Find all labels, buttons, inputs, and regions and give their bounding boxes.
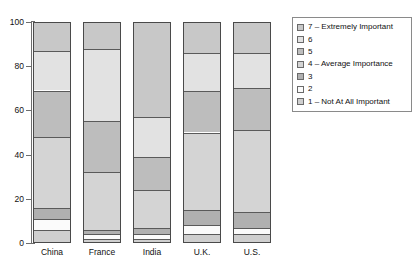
- legend-item-label: 5: [308, 48, 312, 56]
- legend-item: 6: [297, 33, 408, 45]
- bar-segment: [84, 172, 120, 229]
- y-tick-label-wrap: 20: [0, 199, 24, 200]
- bar-segment: [134, 239, 170, 243]
- y-tick-label-wrap: 100: [0, 22, 24, 23]
- bar-segment: [84, 121, 120, 172]
- table-row: [183, 22, 221, 243]
- y-tick-mark: [26, 243, 32, 244]
- legend-swatch-icon: [297, 98, 304, 105]
- bar-segment: [34, 22, 70, 51]
- legend-item-label: 3: [308, 73, 312, 81]
- bar-segment: [34, 230, 70, 243]
- legend: 7 – Extremely Important654 – Average Imp…: [292, 17, 412, 112]
- legend-item-label: 4 – Average Importance: [308, 60, 393, 68]
- y-tick-label-wrap: 60: [0, 110, 24, 111]
- legend-swatch-icon: [297, 48, 304, 55]
- bar-segment: [234, 88, 270, 130]
- y-tick-label-wrap: 40: [0, 155, 24, 156]
- plot-area: [32, 22, 284, 243]
- legend-swatch-icon: [297, 61, 304, 68]
- bar-segment: [34, 51, 70, 91]
- bar-segment: [234, 22, 270, 53]
- bar-segment: [134, 157, 170, 190]
- legend-item: 2: [297, 83, 408, 95]
- bar-segment: [184, 22, 220, 53]
- bar-segment: [134, 190, 170, 228]
- legend-item: 3: [297, 71, 408, 83]
- legend-swatch-icon: [297, 24, 304, 31]
- bar-segment: [184, 91, 220, 133]
- top-clipped-caption: [120, 0, 410, 4]
- bar-segment: [134, 228, 170, 235]
- bar-segment: [234, 53, 270, 88]
- bar-segment: [184, 53, 220, 91]
- legend-item: 7 – Extremely Important: [297, 21, 408, 33]
- bottom-clipped-caption: [0, 262, 415, 273]
- bar-segment: [34, 219, 70, 230]
- y-tick-label: 20: [2, 195, 24, 204]
- bar-segment: [34, 137, 70, 208]
- legend-swatch-icon: [297, 73, 304, 80]
- bar-segment: [84, 22, 120, 49]
- y-tick-label: 0: [2, 239, 24, 248]
- table-row: [233, 22, 271, 243]
- stacked-bar-chart: 100806040200 ChinaFranceIndiaU.K.U.S. 7 …: [0, 0, 415, 273]
- legend-item: 5: [297, 46, 408, 58]
- legend-item-label: 2: [308, 85, 312, 93]
- bar-segment: [234, 130, 270, 212]
- bar-segment: [134, 22, 170, 117]
- bar-segment: [234, 212, 270, 227]
- table-row: [83, 22, 121, 243]
- legend-item: 1 – Not At All Important: [297, 95, 408, 107]
- legend-item-label: 6: [308, 36, 312, 44]
- bar-segment: [184, 234, 220, 243]
- y-tick-label-wrap: 80: [0, 66, 24, 67]
- bar-segment: [84, 49, 120, 122]
- bar-segment: [184, 133, 220, 210]
- y-tick-label-wrap: 0: [0, 243, 24, 244]
- y-tick-label: 100: [2, 18, 24, 27]
- table-row: [33, 22, 71, 243]
- bar-segment: [34, 208, 70, 219]
- legend-item-label: 1 – Not At All Important: [308, 98, 390, 106]
- legend-swatch-icon: [297, 86, 304, 93]
- x-axis-label-us: U.S.: [222, 247, 282, 257]
- legend-item: 4 – Average Importance: [297, 58, 408, 70]
- y-tick-label: 60: [2, 106, 24, 115]
- legend-swatch-icon: [297, 36, 304, 43]
- bar-segment: [184, 210, 220, 225]
- bar-segment: [84, 239, 120, 243]
- table-row: [133, 22, 171, 243]
- legend-rows: 7 – Extremely Important654 – Average Imp…: [297, 21, 408, 108]
- bar-segment: [234, 234, 270, 243]
- bar-segment: [34, 91, 70, 137]
- legend-item-label: 7 – Extremely Important: [308, 23, 393, 31]
- y-tick-label: 40: [2, 151, 24, 160]
- bar-segment: [234, 228, 270, 235]
- y-tick-label: 80: [2, 62, 24, 71]
- bar-segment: [134, 117, 170, 157]
- bar-segment: [184, 225, 220, 234]
